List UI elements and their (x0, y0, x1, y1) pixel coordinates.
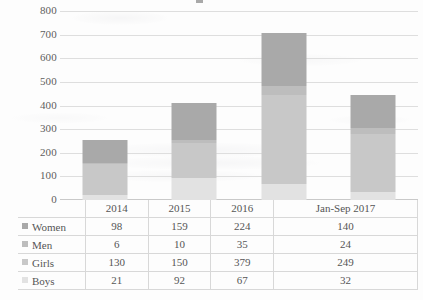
bar-segment-women (172, 103, 217, 141)
table-row: Boys21926732 (18, 272, 418, 290)
y-axis-tick-400: 400 (5, 100, 57, 111)
bar-segment-boys (261, 184, 306, 200)
bar-segment-girls (82, 164, 127, 195)
plot-area (60, 11, 418, 200)
table-cell-boys-2: 67 (211, 272, 274, 290)
table-cell-girls-2: 379 (211, 254, 274, 272)
bar-group-2015 (150, 11, 240, 200)
bar-segment-women (261, 33, 306, 86)
bar-segment-girls (261, 95, 306, 185)
stacked-bar (351, 95, 396, 200)
table-row: Men6103524 (18, 236, 418, 254)
table-cell-women-0: 98 (86, 218, 149, 236)
table-cell-men-1: 10 (148, 236, 211, 254)
stacked-bar (261, 33, 306, 200)
bar-group-jan-sep-2017 (329, 11, 419, 200)
table-cell-men-3: 24 (274, 236, 418, 254)
y-axis-tick-700: 700 (5, 29, 57, 40)
y-axis-tick-100: 100 (5, 170, 57, 181)
table-column-header-2015: 2015 (148, 200, 211, 218)
table-cell-men-0: 6 (86, 236, 149, 254)
legend-item-boys[interactable]: Boys (18, 272, 86, 290)
table-cell-women-3: 140 (274, 218, 418, 236)
bar-segment-boys (172, 178, 217, 200)
table-corner-cell (18, 200, 86, 218)
legend-label-girls: Girls (32, 256, 54, 268)
table-cell-girls-0: 130 (86, 254, 149, 272)
chart-figure: 8007006005004003002001000 201420152016Ja… (0, 0, 423, 300)
cropped-title-remnant (196, 0, 203, 3)
y-axis-tick-200: 200 (5, 147, 57, 158)
bar-segment-men (261, 86, 306, 94)
y-axis-tick-500: 500 (5, 76, 57, 87)
bar-segment-girls (172, 143, 217, 178)
bar-segment-boys (351, 192, 396, 200)
table-cell-women-2: 224 (211, 218, 274, 236)
table-cell-boys-1: 92 (148, 272, 211, 290)
table-cell-girls-1: 150 (148, 254, 211, 272)
table-column-header-jan-sep-2017: Jan-Sep 2017 (274, 200, 418, 218)
legend-item-women[interactable]: Women (18, 218, 86, 236)
table-row: Women98159224140 (18, 218, 418, 236)
stacked-bars (60, 11, 418, 200)
legend-swatch-boys-icon (22, 277, 28, 283)
table-cell-men-2: 35 (211, 236, 274, 254)
legend-item-girls[interactable]: Girls (18, 254, 86, 272)
table-column-header-2014: 2014 (86, 200, 149, 218)
legend-swatch-women-icon (22, 223, 28, 229)
bar-segment-women (351, 95, 396, 128)
legend-label-women: Women (32, 220, 66, 232)
bar-segment-women (82, 140, 127, 163)
stacked-bar (82, 140, 127, 200)
bar-segment-girls (351, 134, 396, 193)
y-axis-tick-800: 800 (5, 5, 57, 16)
legend-label-boys: Boys (32, 274, 55, 286)
y-axis-tick-300: 300 (5, 123, 57, 134)
bar-group-2016 (239, 11, 329, 200)
table-cell-women-1: 159 (148, 218, 211, 236)
legend-item-men[interactable]: Men (18, 236, 86, 254)
data-table: 201420152016Jan-Sep 2017Women98159224140… (18, 200, 418, 290)
table-cell-boys-0: 21 (86, 272, 149, 290)
legend-swatch-men-icon (22, 241, 28, 247)
table-header-row: 201420152016Jan-Sep 2017 (18, 200, 418, 218)
stacked-bar (172, 103, 217, 200)
legend-swatch-girls-icon (22, 259, 28, 265)
legend-label-men: Men (32, 238, 52, 250)
table-cell-boys-3: 32 (274, 272, 418, 290)
bar-group-2014 (60, 11, 150, 200)
table-row: Girls130150379249 (18, 254, 418, 272)
table-cell-girls-3: 249 (274, 254, 418, 272)
table-column-header-2016: 2016 (211, 200, 274, 218)
y-axis-tick-600: 600 (5, 52, 57, 63)
